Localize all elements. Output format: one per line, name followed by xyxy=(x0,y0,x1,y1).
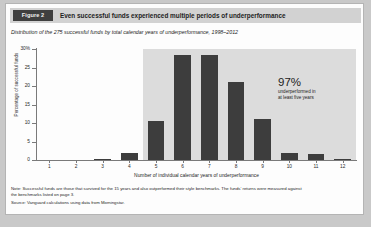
x-tick xyxy=(236,160,237,163)
y-tick-label: 5 xyxy=(27,139,30,144)
figure-panel: Figure 2 Even successful funds experienc… xyxy=(5,3,364,215)
callout-value: 97% xyxy=(278,76,316,88)
x-tick xyxy=(103,160,104,163)
x-tick-label: 6 xyxy=(173,164,193,169)
bar-6 xyxy=(174,55,191,160)
x-tick-label: 8 xyxy=(226,164,246,169)
x-tick xyxy=(129,160,130,163)
x-tick-label: 1 xyxy=(39,164,59,169)
plot-region xyxy=(36,49,356,160)
note-line-2: the benchmarks listed on page 3. xyxy=(11,192,359,198)
bar-9 xyxy=(254,119,271,160)
figure-title: Even successful funds experienced multip… xyxy=(60,10,286,21)
source-line: Source: Vanguard calculations using data… xyxy=(11,200,359,206)
x-tick-label: 7 xyxy=(199,164,219,169)
y-tick-label: 30% xyxy=(20,46,30,51)
y-axis-title: Percentage of successful funds xyxy=(14,37,19,133)
y-tick-label: 15 xyxy=(25,102,30,107)
figure-subtitle: Distribution of the 275 successful funds… xyxy=(11,29,238,35)
x-tick xyxy=(343,160,344,163)
y-tick xyxy=(32,160,36,161)
y-tick-label: 10 xyxy=(25,120,30,125)
x-axis-line xyxy=(36,160,357,161)
figure-notes: Note: Successful funds are those that su… xyxy=(11,186,359,205)
bar-7 xyxy=(201,55,218,160)
x-tick-label: 9 xyxy=(253,164,273,169)
bar-5 xyxy=(148,121,165,160)
bar-8 xyxy=(228,82,245,160)
bar-4 xyxy=(121,153,138,160)
x-tick-label: 11 xyxy=(306,164,326,169)
x-tick xyxy=(289,160,290,163)
callout-annotation: 97% underperformed in at least five year… xyxy=(278,76,316,101)
x-tick-label: 3 xyxy=(93,164,113,169)
x-tick-label: 10 xyxy=(279,164,299,169)
x-tick xyxy=(209,160,210,163)
bar-10 xyxy=(281,153,298,160)
y-tick-label: 20 xyxy=(25,83,30,88)
x-tick-label: 5 xyxy=(146,164,166,169)
x-tick xyxy=(263,160,264,163)
x-tick xyxy=(76,160,77,163)
callout-caption-line1: underperformed in xyxy=(278,89,316,94)
x-tick xyxy=(49,160,50,163)
x-tick xyxy=(183,160,184,163)
x-tick xyxy=(156,160,157,163)
x-tick-label: 12 xyxy=(333,164,353,169)
y-tick-label: 0 xyxy=(27,157,30,162)
figure-number-tag: Figure 2 xyxy=(13,10,53,21)
y-tick-label: 25 xyxy=(25,65,30,70)
figure-header-band: Figure 2 Even successful funds experienc… xyxy=(10,8,361,23)
x-tick-label: 2 xyxy=(66,164,86,169)
x-axis-title: Number of individual calendar years of u… xyxy=(36,173,357,178)
x-tick-label: 4 xyxy=(119,164,139,169)
x-tick xyxy=(316,160,317,163)
callout-caption-line2: at least five years xyxy=(278,95,316,100)
